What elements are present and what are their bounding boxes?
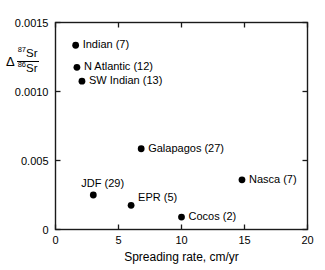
- y-tick-label: 0: [42, 224, 48, 236]
- numerator-element: Sr: [26, 47, 38, 59]
- denominator-element: Sr: [26, 62, 38, 74]
- plot-frame: [56, 23, 308, 230]
- x-axis-title-group: Spreading rate, cm/yr: [124, 250, 239, 264]
- data-point-marker: [74, 64, 81, 71]
- data-point-label: N Atlantic (12): [84, 61, 153, 72]
- y-tick-label: 0.005: [21, 155, 49, 167]
- scatter-plot-figure: 0510152000.0050.00100.0015 Spreading rat…: [0, 0, 325, 270]
- x-tick-label: 0: [52, 234, 58, 246]
- axis-tick-labels: 0510152000.0050.00100.0015: [15, 17, 314, 246]
- data-point-label: EPR (5): [138, 192, 177, 203]
- x-tick-label: 10: [175, 234, 187, 246]
- data-point-marker: [72, 42, 79, 49]
- axis-ticks: [56, 23, 308, 230]
- data-point-marker: [128, 202, 135, 209]
- data-point-label: SW Indian (13): [89, 75, 162, 86]
- data-point-label: Nasca (7): [249, 174, 297, 185]
- x-tick-label: 5: [115, 234, 121, 246]
- data-point-label: Indian (7): [83, 39, 129, 50]
- denominator-mass-number: 86: [18, 60, 26, 69]
- y-axis-title: Δ 87Sr 86Sr: [6, 48, 39, 74]
- plot-canvas: 0510152000.0050.00100.0015 Spreading rat…: [0, 0, 325, 270]
- data-point-marker: [239, 176, 246, 183]
- data-point-marker: [138, 145, 145, 152]
- data-point-label: JDF (29): [81, 178, 124, 189]
- data-point-marker: [79, 78, 86, 85]
- x-tick-label: 15: [238, 234, 250, 246]
- x-axis-title: Spreading rate, cm/yr: [124, 250, 239, 264]
- fraction-denominator: 86Sr: [17, 62, 39, 75]
- plot-axes: [56, 23, 308, 230]
- data-point-label: Galapagos (27): [148, 143, 224, 154]
- numerator-mass-number: 87: [18, 45, 26, 54]
- data-point-marker: [90, 192, 97, 199]
- y-tick-label: 0.0015: [15, 17, 49, 29]
- data-point-label: Cocos (2): [189, 211, 237, 222]
- y-tick-label: 0.0010: [15, 86, 49, 98]
- delta-symbol: Δ: [6, 55, 15, 68]
- x-tick-label: 20: [301, 234, 313, 246]
- data-point-marker: [178, 214, 185, 221]
- isotope-ratio-fraction: 87Sr 86Sr: [17, 48, 39, 74]
